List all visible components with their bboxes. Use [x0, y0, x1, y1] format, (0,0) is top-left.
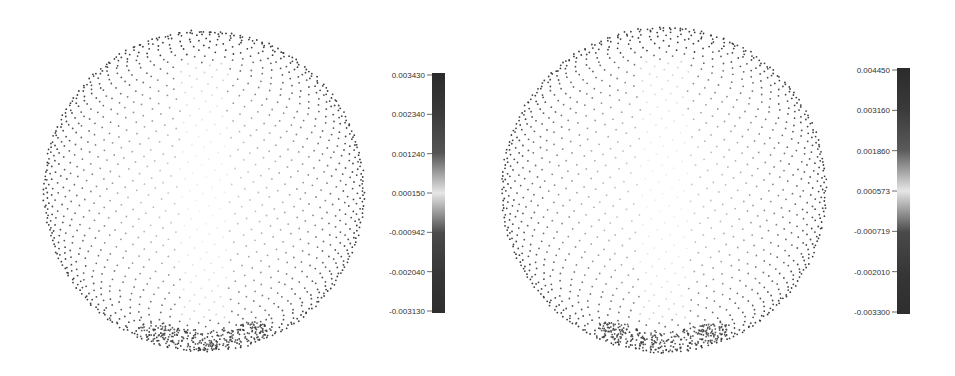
- cloud-point: [105, 307, 107, 309]
- cloud-point: [584, 329, 586, 331]
- cloud-point: [286, 130, 288, 132]
- cloud-point: [652, 28, 654, 30]
- cloud-point: [74, 117, 76, 119]
- cloud-point: [658, 348, 660, 350]
- cloud-point: [676, 86, 678, 88]
- cloud-point: [541, 240, 543, 242]
- cloud-point: [333, 121, 335, 123]
- cloud-point: [153, 206, 155, 208]
- cloud-point: [518, 174, 520, 176]
- cloud-point: [791, 155, 793, 157]
- cloud-point: [198, 40, 200, 42]
- cloud-point: [75, 132, 77, 134]
- cloud-point: [705, 336, 707, 338]
- cloud-point: [737, 189, 739, 191]
- cloud-point: [308, 101, 310, 103]
- cloud-point: [304, 220, 306, 222]
- cloud-point: [150, 76, 152, 78]
- cloud-point: [253, 181, 255, 183]
- cloud-point: [93, 202, 95, 204]
- cloud-point: [270, 287, 272, 289]
- cloud-point: [198, 136, 200, 138]
- cloud-point: [521, 221, 523, 223]
- cloud-point: [255, 317, 257, 319]
- cloud-point: [186, 338, 188, 340]
- cloud-point: [618, 99, 620, 101]
- cloud-point: [135, 161, 137, 163]
- cloud-point: [664, 342, 666, 344]
- cloud-point: [322, 229, 324, 231]
- cloud-point: [730, 130, 732, 132]
- cloud-point: [645, 324, 647, 326]
- cloud-point: [789, 291, 791, 293]
- cloud-point: [526, 123, 528, 125]
- cloud-point: [665, 99, 667, 101]
- cloud-point: [764, 162, 766, 164]
- cloud-point: [277, 190, 279, 192]
- cloud-point: [269, 90, 271, 92]
- cloud-point: [307, 174, 309, 176]
- cloud-point: [50, 235, 52, 237]
- cloud-point: [800, 104, 802, 106]
- cloud-point: [235, 347, 237, 349]
- cloud-point: [758, 152, 760, 154]
- cloud-point: [298, 320, 300, 322]
- cloud-point: [240, 42, 242, 44]
- cloud-point: [320, 136, 322, 138]
- cloud-point: [77, 176, 79, 178]
- cloud-point: [612, 329, 614, 331]
- cloud-point: [100, 294, 102, 296]
- cloud-point: [69, 190, 71, 192]
- cloud-point: [726, 213, 728, 215]
- cloud-point: [187, 63, 189, 65]
- cloud-point: [729, 338, 731, 340]
- cloud-point: [565, 160, 567, 162]
- cloud-point: [310, 294, 312, 296]
- cloud-point: [64, 145, 66, 147]
- cloud-point: [663, 333, 665, 335]
- cloud-point: [317, 289, 319, 291]
- cloud-point: [293, 257, 295, 259]
- cloud-point: [308, 156, 310, 158]
- cloud-point: [140, 327, 142, 329]
- cloud-point: [617, 47, 619, 49]
- cloud-point: [88, 130, 90, 132]
- cloud-point: [302, 311, 304, 313]
- cloud-point: [62, 264, 64, 266]
- cloud-point: [699, 222, 701, 224]
- cloud-point: [693, 271, 695, 273]
- cloud-point: [626, 209, 628, 211]
- cloud-point: [99, 83, 101, 85]
- cloud-point: [43, 183, 45, 185]
- cloud-point: [61, 141, 63, 143]
- cloud-point: [331, 283, 333, 285]
- cloud-point: [720, 327, 722, 329]
- cloud-point: [811, 151, 813, 153]
- cloud-point: [604, 229, 606, 231]
- cloud-point: [157, 39, 159, 41]
- cloud-point: [169, 324, 171, 326]
- cloud-point: [586, 93, 588, 95]
- cloud-point: [248, 333, 250, 335]
- cloud-point: [150, 149, 152, 151]
- cloud-point: [112, 142, 114, 144]
- cloud-point: [755, 278, 757, 280]
- cloud-point: [522, 155, 524, 157]
- cloud-point: [672, 55, 674, 57]
- cloud-point: [708, 335, 710, 337]
- cloud-point: [504, 225, 506, 227]
- cloud-point: [562, 205, 564, 207]
- cloud-point: [812, 206, 814, 208]
- cloud-point: [777, 234, 779, 236]
- cloud-point: [819, 201, 821, 203]
- cloud-point: [716, 146, 718, 148]
- cloud-point: [316, 257, 318, 259]
- cloud-point: [693, 118, 695, 120]
- cloud-point: [53, 230, 55, 232]
- cloud-point: [501, 192, 503, 194]
- cloud-point: [657, 106, 659, 108]
- cloud-point: [48, 202, 50, 204]
- cloud-point: [755, 322, 757, 324]
- cloud-point: [535, 101, 537, 103]
- cloud-point: [509, 232, 511, 234]
